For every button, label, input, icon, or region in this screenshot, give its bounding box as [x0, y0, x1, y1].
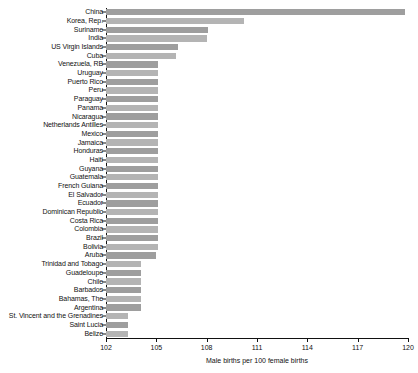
- bar-row: Peru: [0, 86, 418, 95]
- bar-category-label: Colombia: [74, 225, 103, 233]
- bar: [106, 313, 128, 319]
- bar-row: Venezuela, RB: [0, 60, 418, 69]
- bar: [106, 200, 158, 206]
- bar-category-label: Mexico: [81, 130, 103, 138]
- bar-category-label: Guyana: [79, 165, 103, 173]
- bar-category-label: Puerto Rico: [68, 78, 103, 86]
- bar-row: Panama: [0, 104, 418, 113]
- bar-row: Guyana: [0, 164, 418, 173]
- bar: [106, 166, 158, 172]
- bar-category-label: Korea, Rep.: [67, 17, 103, 25]
- bar-category-label: Panama: [78, 104, 103, 112]
- bar: [106, 131, 158, 137]
- x-axis-tick: [257, 338, 258, 342]
- bar: [106, 252, 156, 258]
- bar-row: Colombia: [0, 225, 418, 234]
- x-axis-tick-label: 120: [402, 343, 414, 352]
- bar-row: Cuba: [0, 51, 418, 60]
- bar: [106, 87, 158, 93]
- bar-row: India: [0, 34, 418, 43]
- bar-row: Saint Lucia: [0, 321, 418, 330]
- bar: [106, 18, 244, 24]
- bar-row: Chile: [0, 277, 418, 286]
- bar-category-label: Paraguay: [74, 95, 103, 103]
- bar-row: Guatemala: [0, 173, 418, 182]
- bar-category-label: Venezuela, RB: [58, 60, 103, 68]
- bar-row: Honduras: [0, 147, 418, 156]
- bar: [106, 174, 158, 180]
- bar: [106, 44, 178, 50]
- x-axis-tick: [358, 338, 359, 342]
- bar: [106, 278, 141, 284]
- bar-row: Uruguay: [0, 69, 418, 78]
- bar-category-label: Netherlands Antilles: [43, 121, 103, 129]
- x-axis-title: Male births per 100 female births: [106, 356, 408, 365]
- bar-row: US Virgin Islands: [0, 43, 418, 52]
- bar-category-label: Suriname: [74, 26, 103, 34]
- bar-category-label: French Guiana: [58, 182, 103, 190]
- bar-row: Jamaica: [0, 138, 418, 147]
- bar-row: Brazil: [0, 234, 418, 243]
- bar: [106, 96, 158, 102]
- bar-row: El Salvador: [0, 190, 418, 199]
- bar: [106, 122, 158, 128]
- bar-category-label: El Salvador: [68, 191, 103, 199]
- x-axis-tick-label: 117: [352, 343, 363, 352]
- bar-category-label: Belize: [85, 330, 103, 338]
- bar: [106, 261, 141, 267]
- bar-row: Suriname: [0, 25, 418, 34]
- bar: [106, 61, 158, 67]
- bar-row: Costa Rica: [0, 216, 418, 225]
- x-axis-tick: [106, 338, 107, 342]
- bar-row: Haiti: [0, 156, 418, 165]
- bar-category-label: Bahamas, The: [59, 295, 103, 303]
- bar-row: French Guiana: [0, 182, 418, 191]
- bar-category-label: Trinidad and Tobago: [41, 260, 103, 268]
- bar-category-label: China: [85, 8, 103, 16]
- bar: [106, 244, 158, 250]
- bar-row: Belize: [0, 329, 418, 338]
- male-to-female-birth-ratio-chart: ChinaKorea, Rep.SurinameIndiaUS Virgin I…: [0, 0, 418, 373]
- bar-row: Korea, Rep.: [0, 17, 418, 26]
- bar: [106, 270, 141, 276]
- bar-row: Paraguay: [0, 95, 418, 104]
- bar-category-label: Bolivia: [83, 243, 103, 251]
- x-axis-tick: [207, 338, 208, 342]
- bar-row: Trinidad and Tobago: [0, 260, 418, 269]
- x-axis-tick-label: 105: [150, 343, 162, 352]
- bar-row: Bahamas, The: [0, 295, 418, 304]
- x-axis-tick: [156, 338, 157, 342]
- bar-row: Guadeloupe: [0, 269, 418, 278]
- bar: [106, 53, 176, 59]
- bar: [106, 304, 141, 310]
- bar: [106, 218, 158, 224]
- bar: [106, 331, 128, 337]
- bar-category-label: India: [88, 34, 103, 42]
- bar-row: St. Vincent and the Grenadines: [0, 312, 418, 321]
- plot-area: ChinaKorea, Rep.SurinameIndiaUS Virgin I…: [0, 0, 418, 373]
- bar: [106, 157, 158, 163]
- bar-row: Barbados: [0, 286, 418, 295]
- bar: [106, 70, 158, 76]
- bar-category-label: Brazil: [86, 234, 103, 242]
- bar: [106, 105, 158, 111]
- x-axis-tick-label: 102: [100, 343, 112, 352]
- bar: [106, 287, 141, 293]
- bar-category-label: Honduras: [73, 147, 103, 155]
- bar: [106, 148, 158, 154]
- x-axis-tick-label: 108: [201, 343, 213, 352]
- bar: [106, 209, 158, 215]
- bar-category-label: Guadeloupe: [66, 269, 103, 277]
- bar-category-label: Costa Rica: [70, 217, 103, 225]
- bar: [106, 79, 158, 85]
- bar: [106, 35, 207, 41]
- bar-category-label: Uruguay: [77, 69, 103, 77]
- bar-category-label: Guatemala: [70, 173, 103, 181]
- bar: [106, 235, 158, 241]
- bar: [106, 27, 208, 33]
- bar-category-label: Barbados: [74, 286, 103, 294]
- x-axis-tick: [408, 338, 409, 342]
- bar-row: China: [0, 8, 418, 17]
- bar-row: Ecuador: [0, 199, 418, 208]
- x-axis-tick-label: 114: [302, 343, 313, 352]
